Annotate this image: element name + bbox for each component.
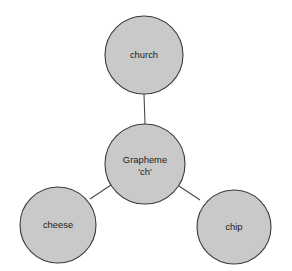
node-church-label: church: [130, 49, 158, 60]
edge-grapheme-to-chip: [179, 186, 200, 200]
edge-grapheme-to-church: [144, 94, 145, 124]
node-chip-label: chip: [225, 221, 242, 232]
node-cheese-label: cheese: [43, 219, 73, 230]
edge-grapheme-to-cheese: [90, 185, 111, 199]
node-cheese[interactable]: cheese: [20, 187, 96, 263]
node-chip[interactable]: chip: [197, 190, 271, 264]
concept-map-diagram: church cheese chip Grapheme 'ch': [0, 0, 292, 271]
diagram-canvas: church cheese chip Grapheme 'ch': [0, 0, 292, 271]
node-church[interactable]: church: [105, 16, 183, 94]
node-grapheme-label-line2: 'ch': [138, 166, 152, 177]
node-grapheme-center[interactable]: Grapheme 'ch': [105, 124, 185, 204]
node-grapheme-label-line1: Grapheme: [123, 154, 167, 165]
